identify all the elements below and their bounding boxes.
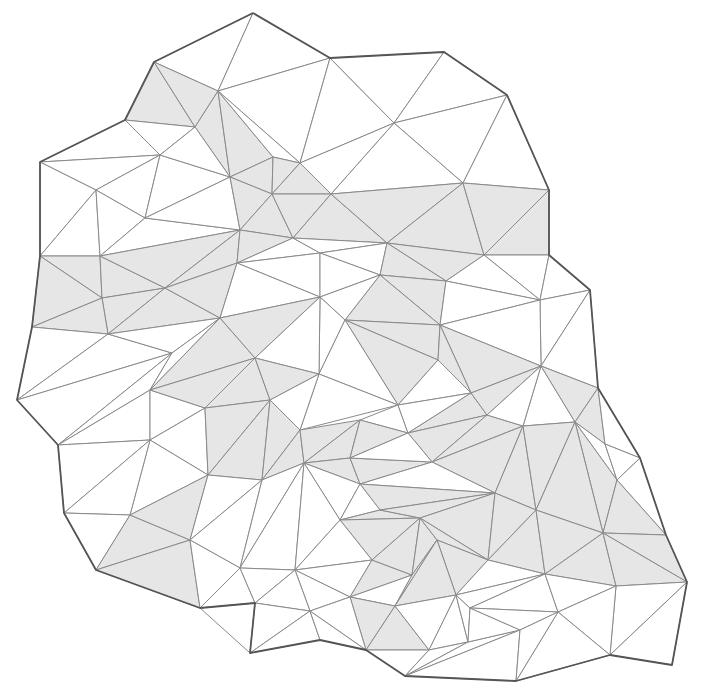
triangle — [200, 603, 255, 653]
triangle-mesh — [0, 0, 707, 694]
triangle-layer — [17, 13, 687, 681]
